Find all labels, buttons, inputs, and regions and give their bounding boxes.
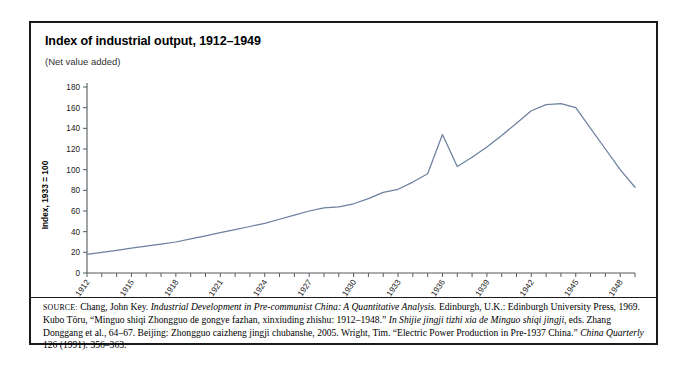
source-label: SOURCE: <box>43 303 78 312</box>
y-tick-label: 100 <box>66 166 80 175</box>
source-work-3: China Quarterly <box>580 327 644 338</box>
x-tick-label: 1945 <box>563 278 581 297</box>
source-work-1: Industrial Development in Pre-communist … <box>151 301 437 312</box>
y-tick-label: 160 <box>66 104 80 113</box>
y-tick-label: 120 <box>66 145 80 154</box>
y-axis: 020406080100120140160180 <box>66 83 87 278</box>
chart-plot-area: 020406080100120140160180 191219151918192… <box>31 75 656 297</box>
figure-subtitle: (Net value added) <box>45 56 656 68</box>
data-series-group <box>87 104 635 255</box>
figure-header: Index of industrial output, 1912–1949 (N… <box>31 23 656 68</box>
x-tick-label: 1939 <box>474 278 492 297</box>
line-chart-svg: 020406080100120140160180 191219151918192… <box>31 75 656 297</box>
y-tick-label: 140 <box>66 124 80 133</box>
x-tick-label: 1912 <box>74 278 92 297</box>
x-tick-label: 1924 <box>252 278 270 297</box>
y-axis-title: Index, 1933 = 100 <box>40 160 50 229</box>
x-tick-label: 1948 <box>607 278 625 297</box>
source-note: SOURCE: Chang, John Key. Industrial Deve… <box>43 301 645 351</box>
x-tick-label: 1921 <box>207 278 225 297</box>
x-tick-label: 1930 <box>340 278 358 297</box>
source-text-4: 126 (1991): 356–363. <box>43 339 126 350</box>
y-tick-label: 80 <box>71 186 81 195</box>
source-text-1: Chang, John Key. <box>78 301 151 312</box>
x-tick-label: 1915 <box>118 278 136 297</box>
y-tick-label: 0 <box>75 269 80 278</box>
figure-panel: Index of industrial output, 1912–1949 (N… <box>29 21 658 345</box>
x-tick-label: 1918 <box>163 278 181 297</box>
source-work-2: In Shijie jingji tizhi xia de Minguo shi… <box>389 314 564 325</box>
y-tick-label: 20 <box>71 248 81 257</box>
x-tick-label: 1927 <box>296 278 314 297</box>
y-tick-label: 60 <box>71 207 81 216</box>
x-tick-label: 1936 <box>429 278 447 297</box>
source-divider <box>31 297 656 298</box>
y-tick-label: 180 <box>66 83 80 92</box>
x-tick-label: 1942 <box>518 278 536 297</box>
y-tick-label: 40 <box>71 228 81 237</box>
page-title: Index of industrial output, 1912–1949 <box>45 34 656 49</box>
x-axis: 1912191519181921192419271930193319361939… <box>74 273 635 297</box>
x-tick-label: 1933 <box>385 278 403 297</box>
data-series-line-0 <box>87 104 635 255</box>
